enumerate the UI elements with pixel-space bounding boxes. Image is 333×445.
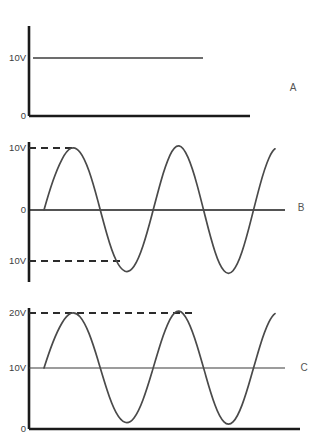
panel-c-label: C (300, 362, 307, 373)
panel-b-tick-negative-10v: 10V (9, 255, 27, 266)
waveform-figure: 10V 0 A 10V 0 10V B 20V 10V (0, 0, 333, 445)
panel-a-label: A (290, 82, 297, 93)
panel-c: 20V 10V 0 C (0, 296, 333, 445)
panel-c-tick-20v: 20V (9, 307, 27, 318)
panel-c-tick-10v: 10V (9, 362, 27, 373)
panel-a-tick-10v: 10V (9, 52, 27, 63)
panel-a-tick-0: 0 (21, 110, 26, 121)
panel-b-label: B (298, 202, 305, 213)
panel-b-tick-0: 0 (21, 204, 26, 215)
panel-b-tick-positive-10v: 10V (9, 142, 27, 153)
panel-a: 10V 0 A (0, 0, 333, 130)
panel-c-tick-0: 0 (21, 423, 26, 434)
panel-b: 10V 0 10V B (0, 133, 333, 283)
